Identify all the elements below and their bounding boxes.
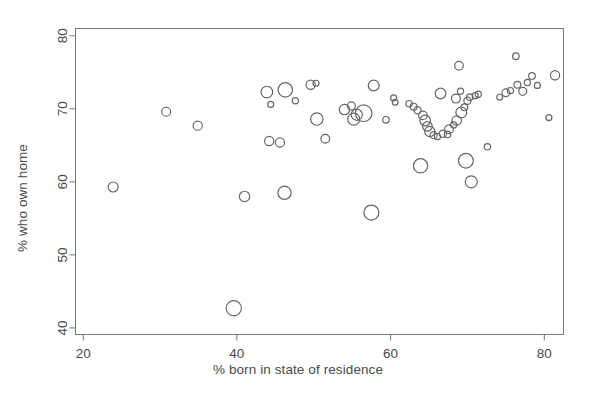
x-tick-label: 80 (537, 346, 552, 361)
data-point-bubble (497, 94, 503, 100)
data-point-bubble (459, 153, 474, 168)
data-point-bubble (514, 81, 521, 88)
data-point-bubble (268, 101, 274, 107)
data-point-bubble (278, 186, 291, 199)
data-point-bubble (261, 86, 273, 98)
data-point-bubble (239, 191, 249, 201)
data-point-bubble (546, 115, 552, 121)
y-tick-label: 50 (55, 247, 70, 262)
data-point-bubble (524, 79, 530, 85)
data-point-bubble (465, 176, 477, 188)
data-point-bubble (275, 138, 284, 147)
data-point-bubble (413, 159, 427, 173)
y-axis-title: % who own home (15, 144, 30, 252)
data-point-bubble (321, 134, 330, 143)
data-point-bubble (226, 301, 241, 316)
data-point-bubble (457, 88, 463, 94)
data-point-bubble (484, 144, 490, 150)
y-tick-label: 60 (55, 174, 70, 189)
data-point-bubble (311, 113, 323, 125)
data-point-bubble (435, 88, 446, 99)
data-point-bubble (452, 94, 461, 103)
data-point-bubble (513, 53, 520, 60)
data-point-bubble (355, 105, 372, 122)
data-point-bubble (193, 121, 202, 130)
data-point-bubble (313, 80, 319, 86)
data-point-bubble (278, 83, 292, 97)
data-point-bubble (108, 182, 118, 192)
axis-layer: 204060804050607080 (55, 28, 564, 360)
data-point-bubble (364, 205, 379, 220)
data-point-bubble (445, 125, 454, 134)
plot-canvas: 204060804050607080 (0, 0, 596, 395)
data-point-bubble (550, 71, 559, 80)
data-point-bubble (420, 115, 431, 126)
data-points-layer (108, 53, 559, 316)
data-point-bubble (339, 104, 349, 114)
x-tick-label: 20 (76, 346, 91, 361)
y-tick-label: 40 (55, 320, 70, 335)
y-tick-label: 80 (55, 28, 70, 43)
data-point-bubble (529, 73, 536, 80)
data-point-bubble (519, 87, 527, 95)
x-tick-label: 40 (229, 346, 244, 361)
data-point-bubble (383, 116, 390, 123)
data-point-bubble (265, 136, 274, 145)
data-point-bubble (292, 98, 298, 104)
x-tick-label: 60 (383, 346, 398, 361)
scatter-plot-figure: 204060804050607080 % born in state of re… (0, 0, 596, 395)
y-tick-label: 70 (55, 101, 70, 116)
data-point-bubble (368, 80, 379, 91)
data-point-bubble (534, 82, 540, 88)
data-point-bubble (162, 107, 171, 116)
data-point-bubble (455, 61, 464, 70)
x-axis-title: % born in state of residence (213, 362, 383, 377)
plot-frame (76, 29, 564, 335)
